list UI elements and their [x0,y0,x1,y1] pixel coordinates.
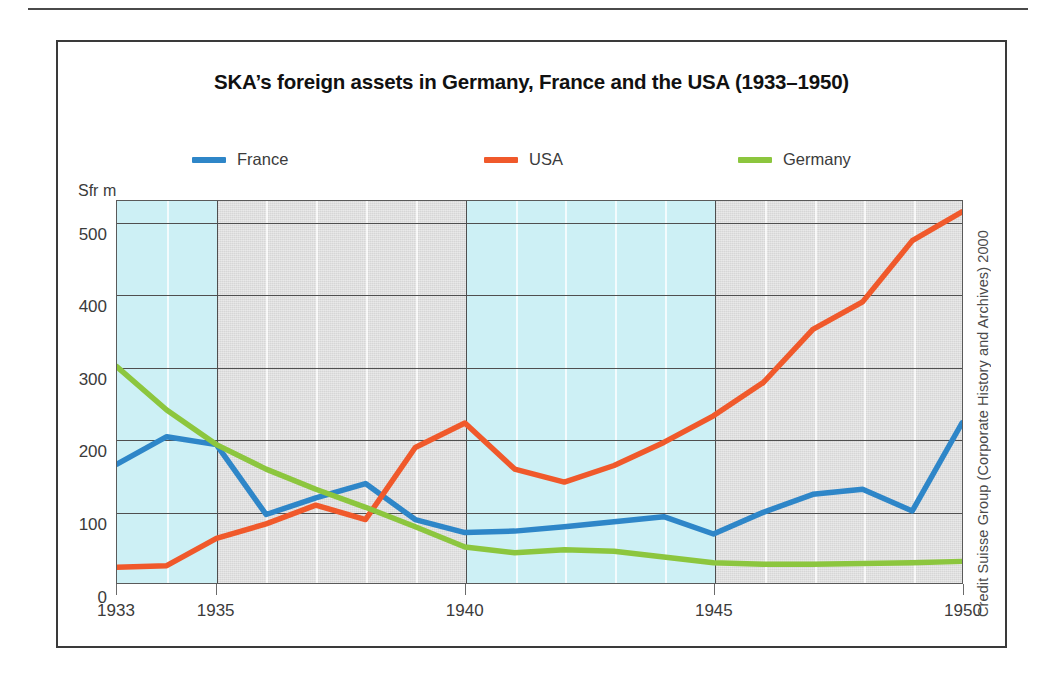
y-tick-label: 100 [79,515,107,535]
figure-page: SKA’s foreign assets in Germany, France … [0,0,1057,684]
series-line-france [117,423,962,534]
y-tick-label: 200 [79,442,107,462]
x-tick-label: 1935 [197,601,235,621]
series-line-usa [117,212,962,567]
plot-area [116,200,963,584]
y-tick-label: 300 [79,370,107,390]
legend-item-label: Germany [783,150,851,169]
legend-item-label: USA [529,150,563,169]
x-tick-label: 1940 [446,601,484,621]
x-tick-label: 1933 [97,601,135,621]
source-credit: Credit Suisse Group (Corporate History a… [975,197,991,617]
plot-wrapper: 0100200300400500 19331935194019451950 [116,200,963,584]
y-axis-unit-label: Sfr m [78,182,116,200]
legend-item-usa[interactable]: USA [484,150,563,169]
chart-legend: FranceUSAGermany [184,150,884,174]
legend-swatch-icon [192,157,226,163]
legend-swatch-icon [738,157,772,163]
legend-item-label: France [237,150,288,169]
x-tick-mark [963,584,964,595]
chart-title: SKA’s foreign assets in Germany, France … [58,70,1005,94]
page-top-rule [28,8,1028,10]
y-tick-label: 400 [79,297,107,317]
legend-item-france[interactable]: France [192,150,288,169]
series-line-germany [117,367,962,564]
x-tick-mark [216,584,217,595]
x-tick-mark [714,584,715,595]
legend-swatch-icon [484,157,518,163]
series-lines-svg [117,201,962,583]
y-tick-label: 500 [79,225,107,245]
legend-item-germany[interactable]: Germany [738,150,851,169]
x-tick-mark [116,584,117,595]
x-tick-label: 1945 [695,601,733,621]
chart-figure-frame: SKA’s foreign assets in Germany, France … [56,40,1007,648]
x-tick-mark [465,584,466,595]
